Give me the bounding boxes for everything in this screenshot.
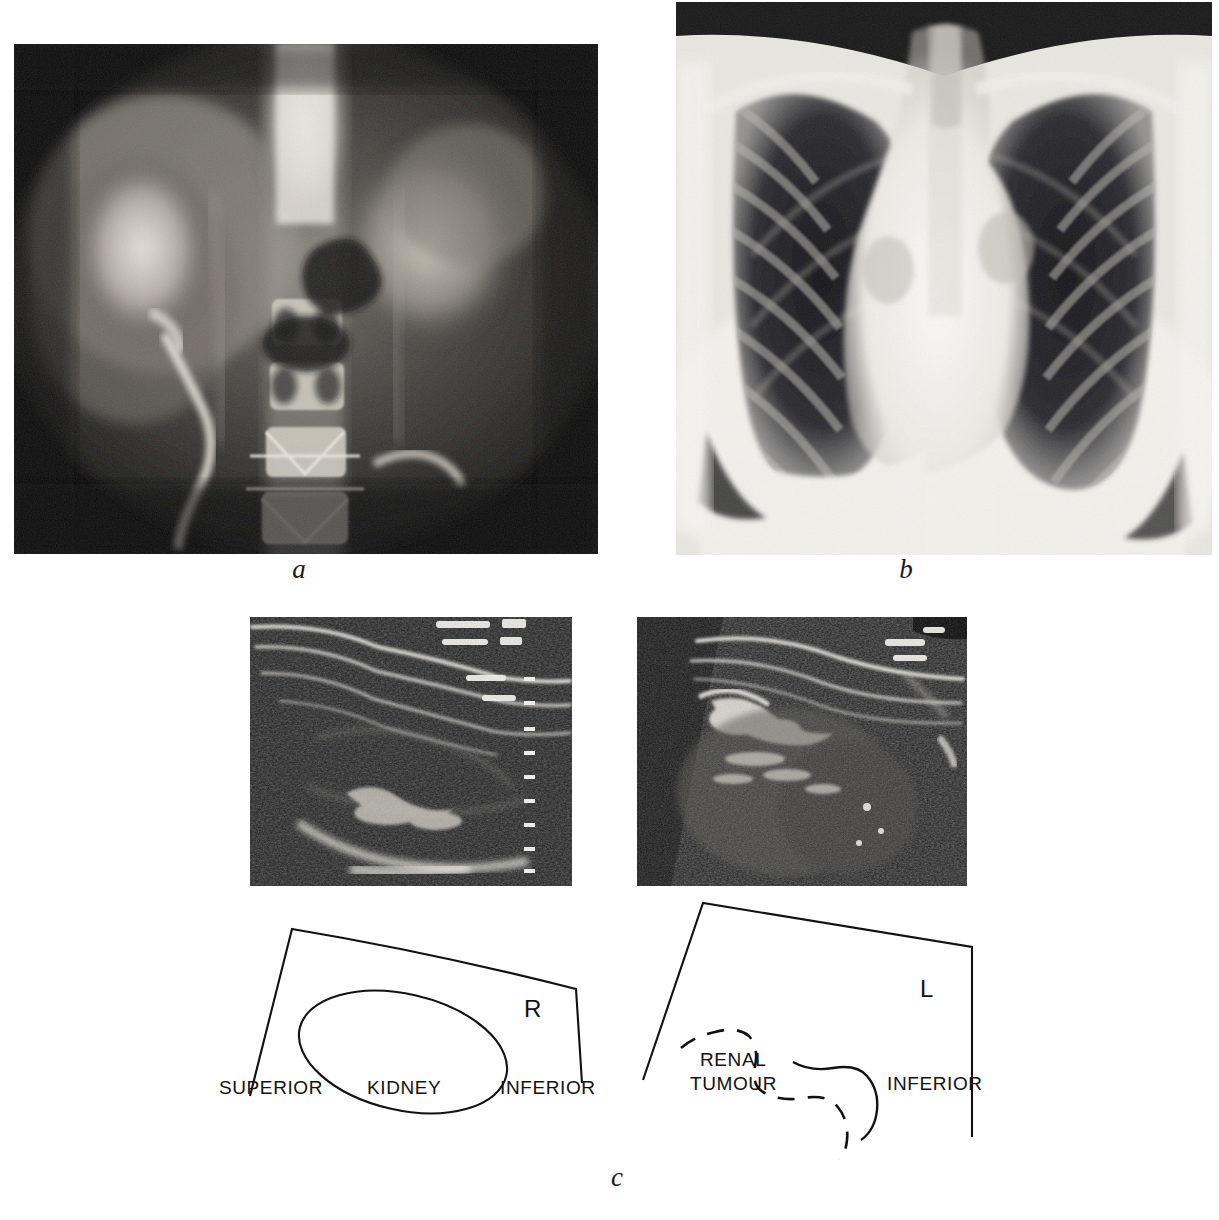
kidney-outline xyxy=(287,972,520,1133)
scan-sector-outline xyxy=(643,903,972,1137)
label-renal-tumour-line2: TUMOUR xyxy=(690,1072,777,1095)
diagram-right-kidney: R xyxy=(190,900,610,1160)
label-inferior-left: INFERIOR xyxy=(887,1072,983,1095)
label-renal-tumour-line1: RENAL xyxy=(700,1048,766,1071)
side-marker-r: R xyxy=(524,995,541,1023)
panel-a-radiograph xyxy=(14,44,598,554)
abdominal-radiograph-image xyxy=(14,44,598,554)
side-marker-l: L xyxy=(920,975,933,1003)
diagram-left-renal-tumour: L xyxy=(620,880,1020,1160)
figure-root: a xyxy=(0,0,1219,1220)
tumour-margin-solid-segment xyxy=(793,1062,877,1140)
ultrasound-right-kidney-image xyxy=(250,617,572,886)
panel-letter-a: a xyxy=(279,556,319,583)
ultrasound-left-renal-tumour xyxy=(637,617,967,886)
chest-radiograph-image xyxy=(676,2,1212,555)
ultrasound-right-kidney xyxy=(250,617,572,886)
diagram-right-kidney-svg xyxy=(190,900,610,1160)
ultrasound-left-renal-tumour-image xyxy=(637,617,967,886)
label-superior-right: SUPERIOR xyxy=(219,1076,323,1099)
label-inferior-right: INFERIOR xyxy=(500,1076,596,1099)
panel-letter-b: b xyxy=(886,556,926,583)
panel-b-radiograph xyxy=(676,2,1212,555)
label-kidney: KIDNEY xyxy=(367,1076,441,1099)
diagram-left-renal-tumour-svg xyxy=(620,880,1020,1160)
panel-letter-c: c xyxy=(597,1164,637,1191)
